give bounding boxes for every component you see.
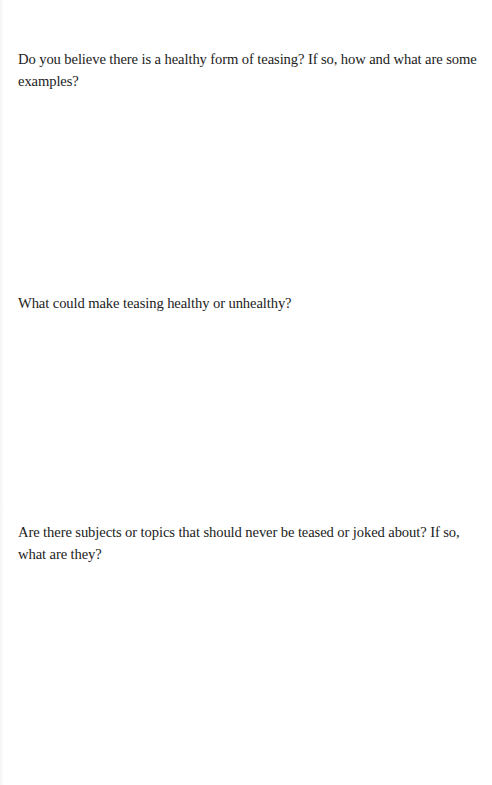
answer-space-3 [18, 572, 478, 772]
question-1: Do you believe there is a healthy form o… [18, 48, 478, 92]
question-3: Are there subjects or topics that should… [18, 521, 478, 565]
answer-space-1 [18, 100, 478, 280]
question-2: What could make teasing healthy or unhea… [18, 292, 478, 314]
answer-space-2 [18, 322, 478, 512]
page-edge-shadow [0, 0, 4, 785]
